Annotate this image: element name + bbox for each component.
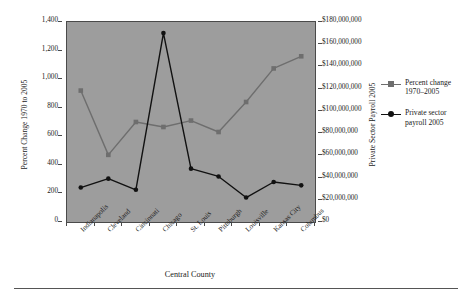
square-marker-icon bbox=[189, 118, 194, 123]
y-right-tick-label: $180,000,000 bbox=[322, 17, 362, 24]
y-right-tick-mark bbox=[318, 154, 322, 155]
y-left-tick-mark bbox=[58, 50, 62, 51]
legend-marker-percent-change bbox=[381, 81, 401, 87]
square-marker-icon bbox=[271, 66, 276, 71]
square-marker-icon bbox=[78, 88, 83, 93]
y-right-tick-mark bbox=[318, 21, 322, 22]
y-left-tick-mark bbox=[58, 78, 62, 79]
y-left-tick-mark bbox=[58, 221, 62, 222]
y-axis-right-ticks: $0$20,000,000$40,000,000$60,000,000$80,0… bbox=[318, 21, 378, 221]
series-line-percent-change bbox=[81, 56, 301, 155]
diamond-marker-icon bbox=[244, 195, 249, 200]
legend-label-line1: Percent change bbox=[405, 78, 451, 87]
y-left-tick-label: 1,200 bbox=[42, 46, 58, 53]
square-marker-icon bbox=[216, 130, 221, 135]
x-category-label: Columbus bbox=[299, 228, 305, 234]
y-left-tick-label: 600 bbox=[47, 132, 58, 139]
diamond-marker-icon bbox=[134, 187, 139, 192]
legend-label-line2: payroll 2005 bbox=[405, 118, 471, 127]
legend-item-private-payroll: Private sector payroll 2005 bbox=[381, 108, 471, 126]
y-right-tick-label: $80,000,000 bbox=[322, 129, 358, 136]
x-category-label: Cincinnati bbox=[134, 228, 140, 234]
y-right-tick-mark bbox=[318, 199, 322, 200]
y-left-tick-label: 1,400 bbox=[42, 17, 58, 24]
legend-item-percent-change: Percent change 1970–2005 bbox=[381, 78, 471, 96]
y-right-tick-label: $160,000,000 bbox=[322, 40, 362, 47]
y-left-tick-label: 400 bbox=[47, 160, 58, 167]
square-marker-icon bbox=[106, 153, 111, 158]
x-axis-category-labels: IndianapolisClevelandCincinnatiChicagoSt… bbox=[0, 226, 471, 270]
plot-area bbox=[66, 21, 316, 223]
y-left-tick-label: 800 bbox=[47, 103, 58, 110]
legend-label-private-payroll: Private sector payroll 2005 bbox=[405, 108, 471, 126]
data-series-layer bbox=[67, 22, 315, 222]
diamond-marker-icon bbox=[216, 174, 221, 179]
y-right-tick-label: $40,000,000 bbox=[322, 173, 358, 180]
y-right-tick-label: $20,000,000 bbox=[322, 195, 358, 202]
square-marker-icon bbox=[161, 125, 166, 130]
y-left-tick-mark bbox=[58, 107, 62, 108]
legend-label-percent-change: Percent change 1970–2005 bbox=[405, 78, 471, 96]
x-category-label: Indianapolis bbox=[79, 228, 85, 234]
y-left-tick-mark bbox=[58, 192, 62, 193]
y-right-tick-mark bbox=[318, 65, 322, 66]
diamond-marker-icon bbox=[189, 166, 194, 171]
y-right-tick-label: $120,000,000 bbox=[322, 84, 362, 91]
x-category-label: St. Louis bbox=[189, 228, 195, 234]
y-right-tick-label: $140,000,000 bbox=[322, 62, 362, 69]
diamond-marker-icon bbox=[299, 183, 304, 188]
y-right-tick-mark bbox=[318, 110, 322, 111]
legend-label-line2: 1970–2005 bbox=[405, 87, 471, 96]
y-right-tick-label: $60,000,000 bbox=[322, 151, 358, 158]
diamond-marker-icon bbox=[161, 31, 166, 36]
x-category-label: Cleveland bbox=[106, 228, 112, 234]
y-right-tick-mark bbox=[318, 132, 322, 133]
y-right-tick-label: $100,000,000 bbox=[322, 106, 362, 113]
y-right-tick-mark bbox=[318, 177, 322, 178]
diamond-marker-icon bbox=[271, 180, 276, 185]
legend-label-line1: Private sector bbox=[405, 108, 447, 117]
y-left-tick-label: 200 bbox=[47, 189, 58, 196]
y-left-tick-mark bbox=[58, 164, 62, 165]
y-axis-left-ticks: 02004006008001,0001,2001,400 bbox=[28, 21, 62, 221]
y-right-tick-mark bbox=[318, 88, 322, 89]
diamond-marker-icon bbox=[78, 185, 83, 190]
square-marker-icon bbox=[388, 81, 394, 87]
legend-marker-private-payroll bbox=[381, 111, 401, 117]
x-category-label: Kansas City bbox=[272, 228, 278, 234]
chart-legend: Percent change 1970–2005 Private sector … bbox=[381, 78, 471, 139]
chart-figure: Percent Change 1970 to 2005 Private Sect… bbox=[0, 0, 471, 297]
diamond-marker-icon bbox=[388, 111, 394, 117]
y-right-tick-mark bbox=[318, 43, 322, 44]
y-right-tick-mark bbox=[318, 221, 322, 222]
series-line-private-payroll bbox=[81, 33, 301, 197]
square-marker-icon bbox=[134, 120, 139, 125]
diamond-marker-icon bbox=[106, 176, 111, 181]
chart-plot-wrapper: Percent Change 1970 to 2005 Private Sect… bbox=[0, 0, 471, 297]
y-left-tick-mark bbox=[58, 135, 62, 136]
y-right-tick-label: $0 bbox=[322, 217, 329, 224]
footer-divider bbox=[14, 288, 458, 289]
square-marker-icon bbox=[299, 54, 304, 59]
x-category-label: Louisville bbox=[244, 228, 250, 234]
x-category-label: Chicago bbox=[161, 228, 167, 234]
x-category-label: Pittsburgh bbox=[217, 228, 223, 234]
y-left-tick-label: 1,000 bbox=[42, 75, 58, 82]
square-marker-icon bbox=[244, 100, 249, 105]
x-axis-title: Central County bbox=[66, 270, 314, 279]
y-left-tick-mark bbox=[58, 21, 62, 22]
